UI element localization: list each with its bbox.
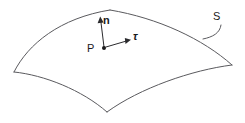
- surface-edge-top-left: [14, 10, 110, 72]
- tangent-vector-label: τ: [133, 31, 138, 42]
- figure-canvas: [0, 0, 245, 123]
- point-p-dot: [102, 46, 106, 50]
- surface-edge-bottom-right: [107, 65, 232, 112]
- surface-edge-bottom-left: [14, 72, 107, 112]
- tangent-vector-arrowhead: [125, 38, 131, 44]
- surface-label-leader-line: [203, 25, 221, 39]
- normal-vector-label: n: [103, 15, 110, 26]
- tangent-vector-shaft: [106, 41, 127, 47]
- surface-label: S: [213, 11, 220, 22]
- point-p-label: P: [87, 43, 94, 54]
- surface-figure: n τ P S: [0, 0, 245, 123]
